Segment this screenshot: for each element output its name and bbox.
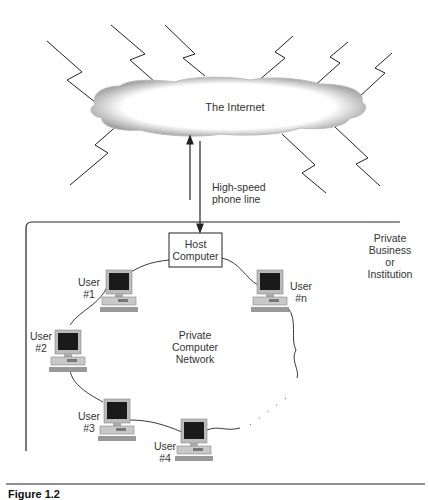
boundary-label-3: or [355,256,425,268]
user-3-label-2: #3 [76,422,102,434]
user-1-label-1: User [76,276,102,288]
user-2-label-1: User [28,330,54,342]
boundary-label-1: Private [355,232,425,244]
pc-user-1 [100,270,138,312]
phone-line-label-1: High-speed [212,181,266,193]
network-label: Private Computer Network [160,329,230,365]
user-n-label-2: #n [288,292,314,304]
network-label-1: Private [160,329,230,341]
user-3-label-1: User [76,410,102,422]
phone-line-arrows [187,136,203,232]
boundary-label: Private Business or Institution [355,232,425,280]
user-3-label: User #3 [76,410,102,434]
user-2-label-2: #2 [28,342,54,354]
user-1-label: User #1 [76,276,102,300]
phone-line-label: High-speed phone line [212,181,266,205]
phone-line-label-2: phone line [212,193,266,205]
pc-user-n [251,270,289,312]
host-label-1: Host [169,238,222,250]
figure-caption: Figure 1.2 [8,488,60,500]
boundary-label-2: Business [355,244,425,256]
network-label-3: Network [160,353,230,365]
boundary-label-4: Institution [355,268,425,280]
user-n-label: User #n [288,280,314,304]
pc-user-2 [49,330,87,372]
pc-user-4 [175,419,213,461]
internet-label: The Internet [195,101,275,113]
host-label-2: Computer [169,250,222,262]
network-label-2: Computer [160,341,230,353]
user-4-label-2: #4 [152,452,178,464]
user-n-label-1: User [288,280,314,292]
user-2-label: User #2 [28,330,54,354]
user-4-label: User #4 [152,440,178,464]
user-4-label-1: User [152,440,178,452]
user-1-label-2: #1 [76,288,102,300]
host-label: Host Computer [169,238,222,262]
